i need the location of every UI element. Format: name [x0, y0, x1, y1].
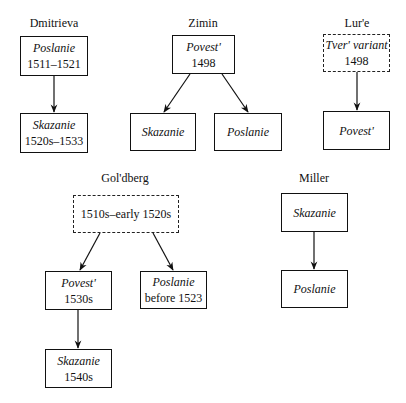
node-name: Skazanie [33, 117, 76, 133]
zimin-skazanie-node: Skazanie [130, 113, 196, 151]
node-name: Tver' variant [325, 37, 387, 53]
lure-povest-node: Povest' [323, 111, 390, 150]
node-date: before 1523 [145, 290, 203, 306]
node-name: Skazanie [142, 124, 185, 140]
dmitrieva-poslanie-node: Poslanie 1511–1521 [20, 36, 88, 76]
miller-title: Miller [254, 171, 374, 185]
node-date: 1540s [64, 369, 93, 385]
node-date: 1510s–early 1520s [81, 206, 171, 222]
goldberg-skazanie-node: Skazanie 1540s [45, 349, 112, 388]
dmitrieva-skazanie-node: Skazanie 1520s–1533 [20, 113, 88, 153]
goldberg-title: Gol'dberg [65, 171, 185, 185]
arrow-zimin-left [164, 74, 190, 112]
arrow-goldberg-left [80, 233, 100, 270]
node-name: Poslanie [153, 274, 195, 290]
node-name: Poslanie [227, 124, 269, 140]
node-date: 1498 [345, 53, 369, 69]
lure-title: Lur'e [297, 16, 406, 30]
goldberg-poslanie-node: Poslanie before 1523 [140, 271, 207, 309]
node-name: Skazanie [57, 353, 100, 369]
node-date: 1498 [192, 55, 216, 71]
miller-skazanie-node: Skazanie [281, 193, 348, 232]
dmitrieva-title: Dmitrieva [0, 16, 114, 30]
arrow-zimin-right [222, 74, 248, 112]
zimin-poslanie-node: Poslanie [214, 113, 282, 151]
node-date: 1520s–1533 [25, 133, 84, 149]
node-name: Skazanie [293, 205, 336, 221]
node-name: Povest' [186, 39, 221, 55]
miller-poslanie-node: Poslanie [281, 270, 348, 308]
node-date: 1511–1521 [27, 56, 81, 72]
node-date: 1530s [64, 291, 93, 307]
node-name: Poslanie [294, 281, 336, 297]
lure-tver-variant-node: Tver' variant 1498 [323, 34, 390, 72]
zimin-title: Zimin [143, 16, 263, 30]
node-name: Poslanie [33, 40, 75, 56]
zimin-povest-node: Povest' 1498 [172, 35, 235, 74]
goldberg-povest-node: Povest' 1530s [45, 271, 112, 310]
goldberg-hypothetical-node: 1510s–early 1520s [73, 195, 179, 233]
node-name: Povest' [61, 275, 96, 291]
arrow-goldberg-right [153, 233, 173, 270]
node-name: Povest' [339, 123, 374, 139]
